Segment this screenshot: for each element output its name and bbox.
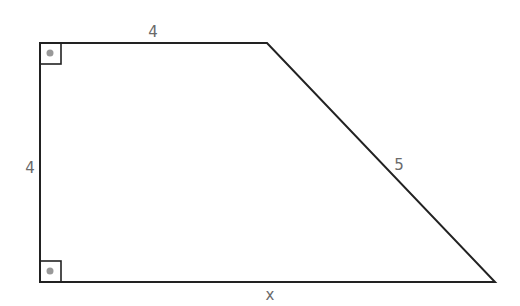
slant-side-label: 5 <box>394 158 404 173</box>
right-angle-marker-top-left <box>40 43 61 64</box>
trapezoid-shape <box>40 43 495 282</box>
top-side-label: 4 <box>148 25 158 40</box>
left-side-label: 4 <box>25 161 35 176</box>
bottom-side-label: x <box>266 288 275 303</box>
trapezoid-diagram <box>0 0 520 306</box>
right-angle-marker-bottom-left <box>40 261 61 282</box>
